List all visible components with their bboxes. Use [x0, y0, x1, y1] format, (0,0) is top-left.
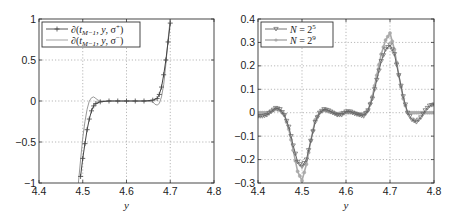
y-tick-label: 0.2 [240, 59, 255, 71]
y-tick-label: 0 [30, 95, 36, 107]
x-tick-label: 4.7 [163, 185, 178, 197]
x-tick-label: 4.6 [339, 185, 354, 197]
x-axis-label: y [343, 199, 349, 211]
star-marker [386, 35, 389, 38]
y-tick-label: −0.1 [234, 130, 255, 142]
x-tick-label: 4.6 [119, 185, 134, 197]
y-tick-label: −0.2 [234, 153, 255, 165]
legend-label: N = 29 [289, 34, 316, 46]
y-tick-label: 0.4 [240, 13, 255, 25]
x-tick-label: 4.5 [75, 185, 90, 197]
legend-label: ∂(tM−1, y, σ−) [71, 34, 123, 48]
y-tick-label: −0.5 [15, 136, 36, 148]
star-marker [384, 38, 387, 41]
right-plot: 4.44.54.64.74.80.40.30.20.10−0.1−0.2−0.3… [234, 13, 441, 212]
legend: N = 25N = 29 [261, 22, 333, 47]
x-tick-label: 4.8 [427, 185, 442, 197]
x-tick-label: 4.5 [295, 185, 310, 197]
star-marker [391, 40, 394, 43]
y-tick-label: −1 [24, 177, 36, 189]
star-marker [298, 174, 301, 177]
y-tick-label: −0.3 [234, 177, 255, 189]
figure: 4.44.54.64.74.810.50−0.5−1y∂(tM−1, y, σ+… [0, 0, 455, 220]
left-plot: 4.44.54.64.74.810.50−0.5−1y∂(tM−1, y, σ+… [15, 13, 221, 212]
legend: ∂(tM−1, y, σ+)∂(tM−1, y, σ−) [42, 22, 140, 48]
x-axis-label: y [123, 199, 129, 211]
y-tick-label: 0.5 [21, 54, 36, 66]
x-tick-label: 4.8 [207, 185, 222, 197]
star-marker [296, 170, 299, 173]
star-marker [303, 171, 306, 174]
y-tick-label: 0.3 [240, 36, 255, 48]
y-tick-label: 1 [30, 13, 36, 25]
star-marker [388, 31, 391, 34]
y-tick-label: 0.1 [240, 83, 255, 95]
x-tick-label: 4.7 [383, 185, 398, 197]
star-marker [300, 179, 303, 182]
y-tick-label: 0 [249, 106, 255, 118]
